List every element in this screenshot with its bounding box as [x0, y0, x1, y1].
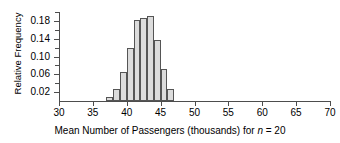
histogram-bar — [134, 20, 141, 101]
histogram-bar — [113, 89, 120, 101]
x-tick-major — [262, 101, 263, 106]
x-tick-major — [161, 101, 162, 106]
x-axis-title-prefix: Mean Number of Passengers (thousands) fo… — [55, 125, 258, 136]
histogram-bar — [161, 69, 168, 101]
y-tick-label: 0.14 — [31, 33, 54, 44]
y-tick-label: 0.18 — [31, 15, 54, 26]
x-tick-label: 40 — [115, 107, 139, 118]
x-tick-label: 70 — [318, 107, 340, 118]
y-axis-title: Relative Frequency — [12, 4, 23, 104]
histogram-bar — [147, 16, 154, 101]
x-tick-major — [330, 101, 331, 106]
x-tick-label: 55 — [216, 107, 240, 118]
histogram-bar — [127, 48, 134, 101]
x-tick-label: 50 — [183, 107, 207, 118]
x-tick-label: 65 — [284, 107, 308, 118]
x-axis-title: Mean Number of Passengers (thousands) fo… — [0, 125, 340, 136]
histogram-bar — [106, 97, 113, 101]
x-tick-label: 35 — [81, 107, 105, 118]
x-axis-title-suffix: = 20 — [263, 125, 286, 136]
y-tick-label: 0.06 — [31, 68, 54, 79]
x-tick-label: 45 — [149, 107, 173, 118]
y-tick-label: 0.10 — [31, 51, 54, 62]
x-tick-label: 60 — [250, 107, 274, 118]
x-tick-major — [93, 101, 94, 106]
histogram-bar — [140, 18, 147, 101]
x-tick-major — [228, 101, 229, 106]
histogram-bar — [154, 40, 161, 101]
histogram-bar — [167, 89, 174, 101]
histogram-bar — [120, 72, 127, 101]
x-tick-major — [59, 101, 60, 106]
x-tick-major — [127, 101, 128, 106]
y-tick-label: 0.02 — [31, 86, 54, 97]
histogram-chart: Relative Frequency 0.020.060.100.140.18 … — [0, 0, 340, 143]
x-tick-major — [296, 101, 297, 106]
x-tick-label: 30 — [47, 107, 71, 118]
plot-area — [59, 12, 330, 101]
x-tick-major — [195, 101, 196, 106]
